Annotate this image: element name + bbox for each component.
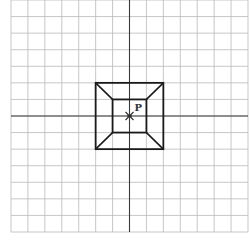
point-p-label: P bbox=[135, 102, 143, 113]
diagonal-bottom-left bbox=[96, 133, 113, 150]
grid-diagram: P bbox=[0, 0, 251, 242]
diagonal-top-right bbox=[146, 83, 163, 100]
diagonal-top-left bbox=[96, 83, 113, 100]
diagonal-bottom-right bbox=[146, 133, 163, 150]
